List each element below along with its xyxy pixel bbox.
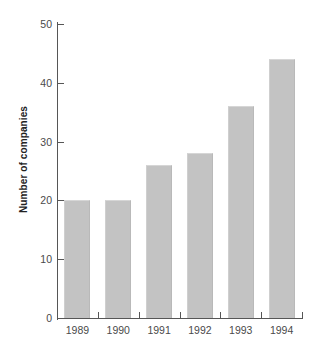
x-axis-tick-label: 1989 [66,324,89,336]
bar [146,165,172,318]
bar [187,153,213,318]
x-axis-tick-label: 1991 [147,324,170,336]
bar-chart-figure: Number of companies 01020304050 19891990… [0,0,320,360]
x-axis-tick [57,312,58,319]
x-axis-tick [220,312,221,319]
x-axis-tick [98,312,99,319]
y-axis-tick-label: 0 [6,312,52,324]
bar [228,106,254,318]
x-axis-tick [139,312,140,319]
x-axis-tick [261,312,262,319]
y-axis-tick-label: 40 [6,77,52,89]
x-axis-tick-label: 1990 [107,324,130,336]
y-axis-tick-label: 20 [6,194,52,206]
y-axis-line [57,22,58,320]
y-axis-tick [57,142,64,143]
y-axis-tick-label: 30 [6,136,52,148]
y-axis-tick [57,24,64,25]
y-axis-tick-label: 10 [6,253,52,265]
x-axis-tick [302,312,303,319]
bar [269,59,295,318]
x-axis-tick [180,312,181,319]
y-axis-tick-label: 50 [6,18,52,30]
x-axis-tick-label: 1993 [229,324,252,336]
y-axis-tick [57,318,64,319]
bar [105,200,131,318]
y-axis-tick [57,200,64,201]
x-axis-tick-label: 1994 [270,324,293,336]
bar [64,200,90,318]
y-axis-tick [57,83,64,84]
x-axis-tick-label: 1992 [188,324,211,336]
y-axis-tick [57,259,64,260]
y-axis-title: Number of companies [12,0,34,318]
